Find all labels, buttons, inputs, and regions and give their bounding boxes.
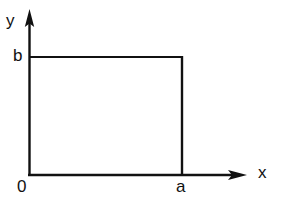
y-axis-label: y <box>6 12 15 29</box>
a-value-label: a <box>176 178 185 195</box>
x-axis-label: x <box>258 164 267 181</box>
b-value-label: b <box>13 47 22 64</box>
figure-canvas: y b 0 a x <box>0 0 284 199</box>
coordinate-diagram <box>0 0 284 199</box>
origin-label: 0 <box>17 178 26 195</box>
